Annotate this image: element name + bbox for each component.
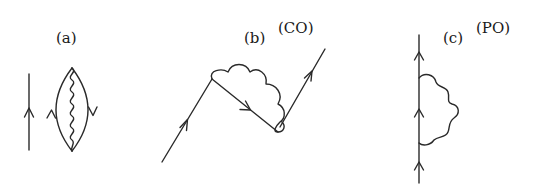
wavy-interaction-line-a	[70, 68, 73, 151]
feynman-diagrams-figure: (a) (b) (CO) (c) (PO)	[0, 0, 535, 190]
fermion-loop-left-arc	[56, 68, 72, 151]
panel-b: (b) (CO)	[162, 19, 325, 162]
panel-c: (c) (PO)	[415, 19, 511, 183]
arrow-up-right-icon	[305, 71, 313, 81]
panel-a-label: (a)	[56, 29, 77, 47]
panel-c-label: (c)	[443, 29, 463, 47]
arrow-down-icon	[89, 107, 98, 116]
panel-b-tag: (CO)	[278, 19, 313, 37]
fermion-line-b-outgoing	[280, 49, 325, 127]
wavy-self-energy-loop-c	[419, 75, 458, 145]
panel-b-label: (b)	[244, 29, 265, 47]
wavy-interaction-line-b	[211, 65, 284, 133]
arrow-up-icon	[47, 110, 56, 118]
panel-c-tag: (PO)	[476, 19, 510, 37]
fermion-loop-right-arc	[72, 68, 88, 151]
fermion-line-b-middle	[212, 79, 278, 132]
panel-a: (a)	[25, 29, 98, 151]
